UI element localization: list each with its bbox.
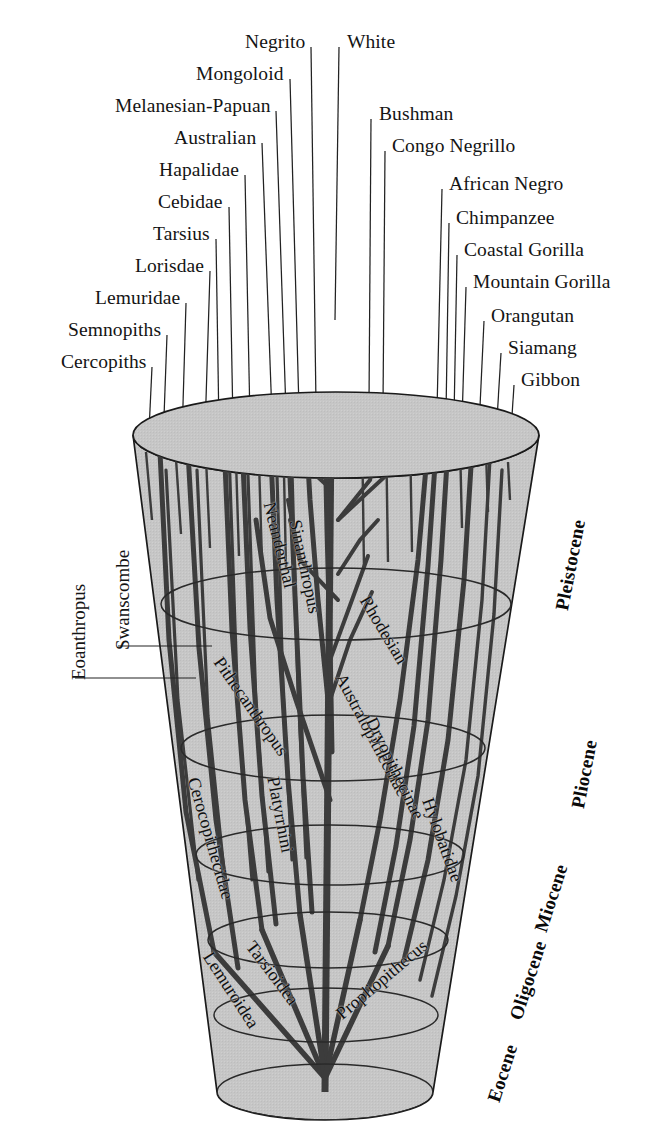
taxon-label-negrito: Negrito — [245, 32, 305, 52]
taxon-label-lemuridae: Lemuridae — [95, 288, 180, 308]
side-label-eoanthropus: Eoanthropus — [68, 584, 90, 680]
taxon-label-african-negro: African Negro — [449, 174, 563, 194]
taxon-label-white: White — [347, 32, 395, 52]
taxon-label-semnopiths: Semnopiths — [68, 320, 161, 340]
taxon-label-orangutan: Orangutan — [491, 306, 574, 326]
taxon-label-siamang: Siamang — [508, 338, 577, 358]
leader-line-african-negro — [437, 189, 442, 411]
leader-line-negrito — [311, 47, 316, 404]
leader-line-congo-negrillo — [383, 151, 385, 406]
taxon-label-lorisdae: Lorisdae — [135, 256, 204, 276]
taxon-label-bushman: Bushman — [379, 104, 453, 124]
leader-line-chimpanzee — [446, 223, 449, 414]
taxon-label-australian: Australian — [174, 128, 256, 148]
leader-line-australian — [262, 143, 272, 416]
leader-line-bushman — [369, 119, 371, 404]
taxon-label-cercopiths: Cercopiths — [61, 352, 146, 372]
taxon-label-cebidae: Cebidae — [158, 192, 223, 212]
leader-line-coastal-gorilla — [454, 255, 457, 418]
taxon-label-mountain-gorilla: Mountain Gorilla — [473, 272, 611, 292]
diagram-canvas: NegritoMongoloidMelanesian-PapuanAustral… — [0, 0, 672, 1147]
taxon-label-hapalidae: Hapalidae — [159, 160, 239, 180]
leader-line-white — [335, 47, 339, 320]
taxon-label-congo-negrillo: Congo Negrillo — [392, 136, 515, 156]
leader-line-cebidae — [229, 207, 233, 424]
taxon-label-chimpanzee: Chimpanzee — [456, 208, 554, 228]
cone-top-ellipse — [133, 392, 539, 478]
leader-line-hapalidae — [245, 175, 250, 420]
leader-line-mongoloid — [290, 79, 299, 409]
taxon-label-gibbon: Gibbon — [521, 370, 580, 390]
leader-line-melanesian-papuan — [276, 111, 286, 412]
taxon-label-coastal-gorilla: Coastal Gorilla — [464, 240, 584, 260]
taxon-label-mongoloid: Mongoloid — [196, 64, 284, 84]
taxon-label-tarsius: Tarsius — [153, 224, 210, 244]
side-label-swanscombe: Swanscombe — [112, 550, 134, 650]
taxon-label-melanesian-papuan: Melanesian-Papuan — [115, 96, 270, 116]
